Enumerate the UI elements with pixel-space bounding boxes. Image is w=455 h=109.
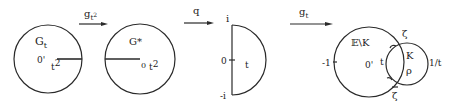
origin-label: 0' xyxy=(37,55,45,65)
point-label: t2 xyxy=(51,58,60,72)
point-label: t2 xyxy=(149,59,158,72)
panel-g-t: Gt 0' t2 xyxy=(14,25,82,93)
t-label: t xyxy=(380,57,384,67)
arrow-g-t: gt xyxy=(290,6,333,26)
arrow-label: q xyxy=(193,5,200,16)
left-point-label: -1 xyxy=(322,58,331,68)
region-label: Gt xyxy=(35,35,48,50)
zeta-bar-label: ζ xyxy=(392,90,398,101)
arrow-label: gt xyxy=(299,6,308,20)
panel-g-star: G* 0 t2 xyxy=(105,24,175,94)
inner-region-label: K xyxy=(406,50,414,61)
point-label: t xyxy=(245,60,249,70)
conformal-map-diagram: Gt 0' t2 gt2 G* 0 t2 q i 0 -i t gt xyxy=(0,0,455,109)
panel-lens: 𝔼\K K -1 0' t ρ 1/t ζ ζ xyxy=(322,27,442,101)
outer-region-label: 𝔼\K xyxy=(351,37,370,48)
origin-label: 0 xyxy=(141,61,146,70)
origin-label: 0 xyxy=(221,56,227,66)
arrow-g-t2: gt2 xyxy=(79,8,108,26)
rho-label: ρ xyxy=(406,65,412,76)
bottom-label: -i xyxy=(220,91,226,101)
arrow-label: gt2 xyxy=(84,8,97,22)
origin-label: 0' xyxy=(365,60,373,70)
top-label: i xyxy=(226,13,229,24)
arrow-q: q xyxy=(184,5,214,25)
region-label: G* xyxy=(129,36,142,47)
zeta-label: ζ xyxy=(402,28,408,39)
panel-half-disk: i 0 -i t xyxy=(220,13,266,101)
right-point-label: 1/t xyxy=(429,58,442,68)
